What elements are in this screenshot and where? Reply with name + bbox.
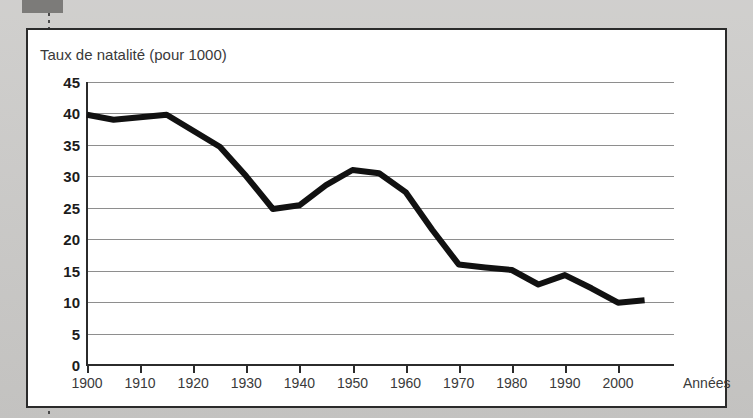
page-marker-tab: [22, 0, 63, 13]
line-series-svg: [28, 30, 729, 410]
plot-area: 051015202530354045 190019101920193019401…: [28, 30, 729, 410]
chart-figure: Taux de natalité (pour 1000) 05101520253…: [26, 28, 727, 408]
x-axis-title: Années: [683, 375, 730, 391]
page-background: Taux de natalité (pour 1000) 05101520253…: [0, 0, 753, 418]
series-line-taux-de-natalite: [87, 115, 645, 303]
